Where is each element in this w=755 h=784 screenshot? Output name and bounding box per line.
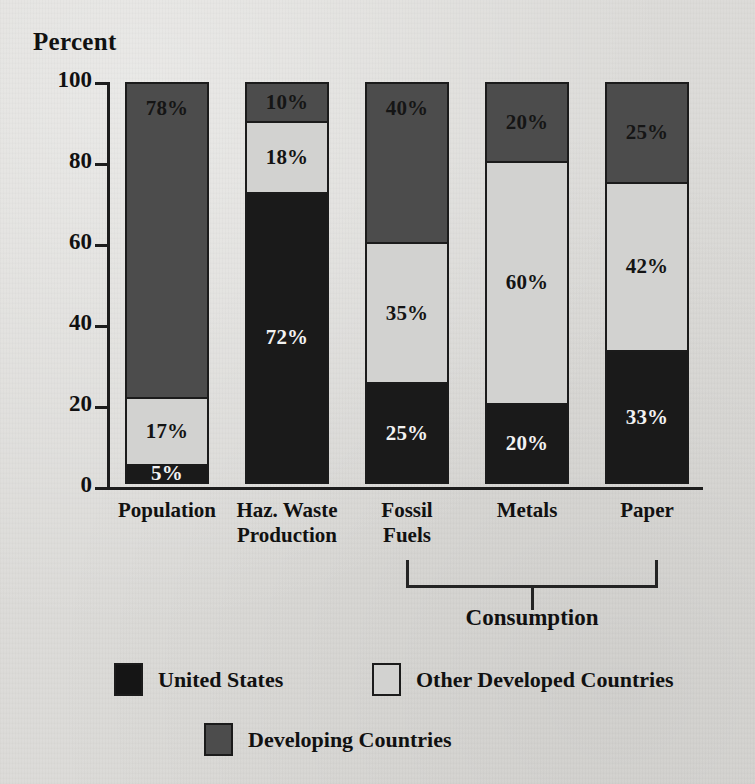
- y-tick-80: [95, 163, 109, 166]
- legend-label-developing-countries: Developing Countries: [248, 727, 452, 753]
- y-tick-20: [95, 406, 109, 409]
- segment-label: 5%: [151, 463, 183, 484]
- bar-paper[interactable]: 25% 42% 33%: [605, 82, 689, 488]
- segment-label: 20%: [506, 433, 549, 454]
- segment-developing-paper[interactable]: 25%: [605, 82, 689, 184]
- y-tick-label-0: 0: [36, 472, 92, 498]
- y-tick-100: [95, 82, 109, 85]
- segment-label: 25%: [626, 122, 669, 143]
- y-tick-60: [95, 244, 109, 247]
- legend-swatch-developing-countries: [204, 723, 233, 756]
- x-label-line2: Fuels: [332, 523, 482, 548]
- segment-label: 35%: [386, 303, 429, 324]
- segment-united-states-paper[interactable]: 33%: [605, 350, 689, 484]
- segment-other-developed-paper[interactable]: 42%: [605, 182, 689, 353]
- y-tick-label-80: 80: [36, 148, 92, 174]
- legend-item-developing-countries[interactable]: Developing Countries: [204, 723, 452, 756]
- segment-label: 18%: [266, 147, 309, 168]
- segment-developing-haz-waste-production[interactable]: 10%: [245, 82, 329, 123]
- segment-other-developed-haz-waste-production[interactable]: 18%: [245, 121, 329, 194]
- segment-label: 17%: [146, 421, 189, 442]
- x-label-line1: Paper: [572, 498, 722, 523]
- segment-developing-population[interactable]: 78%: [125, 82, 209, 399]
- y-axis-title: Percent: [33, 28, 117, 56]
- legend-label-united-states: United States: [158, 667, 283, 693]
- y-tick-label-100: 100: [36, 67, 92, 93]
- consumption-bracket-label: Consumption: [382, 605, 682, 631]
- segment-label: 60%: [506, 272, 549, 293]
- consumption-bracket: [406, 560, 658, 588]
- y-tick-label-40: 40: [36, 310, 92, 336]
- segment-united-states-metals[interactable]: 20%: [485, 403, 569, 484]
- legend-item-united-states[interactable]: United States: [114, 663, 283, 696]
- y-tick-40: [95, 325, 109, 328]
- segment-label: 25%: [386, 423, 429, 444]
- segment-united-states-fossil-fuels[interactable]: 25%: [365, 382, 449, 484]
- y-tick-label-20: 20: [36, 391, 92, 417]
- y-axis-line: [107, 82, 110, 490]
- x-label-paper: Paper: [572, 498, 722, 523]
- segment-label: 42%: [626, 256, 669, 277]
- segment-label: 33%: [626, 407, 669, 428]
- segment-developing-metals[interactable]: 20%: [485, 82, 569, 163]
- bar-fossil-fuels[interactable]: 40% 35% 25%: [365, 82, 449, 488]
- segment-label: 72%: [266, 327, 309, 348]
- bar-haz-waste-production[interactable]: 10% 18% 72%: [245, 82, 329, 488]
- segment-other-developed-metals[interactable]: 60%: [485, 161, 569, 405]
- legend-swatch-other-developed-countries: [372, 663, 401, 696]
- segment-united-states-population[interactable]: 5%: [125, 464, 209, 484]
- segment-label: 78%: [146, 98, 189, 119]
- bar-population[interactable]: 78% 17% 5%: [125, 82, 209, 488]
- bar-metals[interactable]: 20% 60% 20%: [485, 82, 569, 488]
- segment-other-developed-fossil-fuels[interactable]: 35%: [365, 242, 449, 384]
- legend-item-other-developed-countries[interactable]: Other Developed Countries: [372, 663, 673, 696]
- segment-united-states-haz-waste-production[interactable]: 72%: [245, 192, 329, 484]
- segment-label: 40%: [386, 98, 429, 119]
- segment-other-developed-population[interactable]: 17%: [125, 397, 209, 466]
- segment-label: 20%: [506, 112, 549, 133]
- y-tick-label-60: 60: [36, 229, 92, 255]
- legend-label-other-developed-countries: Other Developed Countries: [416, 667, 673, 693]
- stacked-bar-chart: Percent 100 80 60 40 20 0 78% 17% 5% 10%…: [0, 0, 755, 784]
- segment-developing-fossil-fuels[interactable]: 40%: [365, 82, 449, 244]
- segment-label: 10%: [266, 92, 309, 113]
- y-tick-0: [95, 487, 109, 490]
- legend-swatch-united-states: [114, 663, 143, 696]
